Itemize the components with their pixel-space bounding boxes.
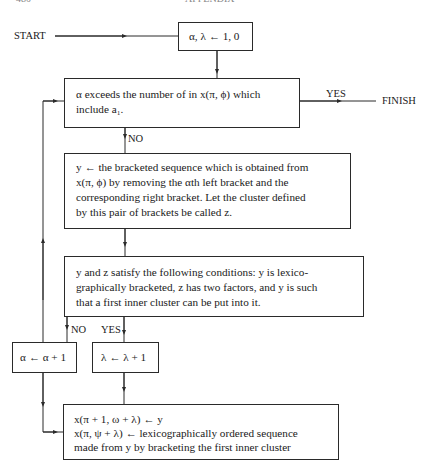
final-line3: made from y by bracketing the first inne… — [74, 440, 291, 455]
process1-line4: by this pair of brackets be called z. — [76, 205, 232, 220]
decision1-line2: include a₁. — [76, 102, 123, 117]
decision2-yes-label: YES — [101, 324, 121, 336]
init-box: α, λ ← 1, 0 — [178, 22, 253, 51]
decision2-line2: graphically bracketed, z has two factors… — [76, 280, 317, 295]
process1-line1: y ← the bracketed sequence which is obta… — [76, 160, 308, 175]
final-assignment-box: x(π + 1, ω + λ) ← y x(π, ψ + λ) ← lexico… — [63, 404, 339, 460]
init-box-text: α, λ ← 1, 0 — [189, 29, 239, 44]
final-line2: x(π, ψ + λ) ← lexicographically ordered … — [74, 426, 298, 441]
flowchart-connectors — [0, 0, 433, 469]
decision-box-alpha-exceeds: α exceeds the number of in x(π, ϕ) which… — [64, 78, 300, 128]
finish-label: FINISH — [382, 95, 416, 107]
process1-line3: corresponding right bracket. Let the clu… — [76, 190, 306, 205]
process-box-bracketed-sequence: y ← the bracketed sequence which is obta… — [64, 153, 351, 229]
alpha-increment-box: α ← α + 1 — [12, 342, 77, 373]
decision1-line1: α exceeds the number of in x(π, ϕ) which — [76, 87, 260, 102]
decision2-line1: y and z satisfy the following conditions… — [76, 265, 308, 280]
start-label: START — [14, 30, 46, 42]
decision2-no-label: NO — [71, 324, 86, 336]
decision2-line3: that a first inner cluster can be put in… — [76, 295, 261, 310]
decision1-no-label: NO — [128, 133, 143, 145]
process1-line2: x(π, ϕ) by removing the αth left bracket… — [76, 175, 289, 190]
lambda-increment-text: λ ← λ + 1 — [101, 350, 146, 365]
alpha-increment-text: α ← α + 1 — [20, 350, 66, 365]
final-line1: x(π + 1, ω + λ) ← y — [74, 412, 163, 427]
decision1-yes-label: YES — [326, 88, 346, 100]
lambda-increment-box: λ ← λ + 1 — [92, 342, 159, 373]
decision-box-y-z-conditions: y and z satisfy the following conditions… — [64, 256, 364, 317]
